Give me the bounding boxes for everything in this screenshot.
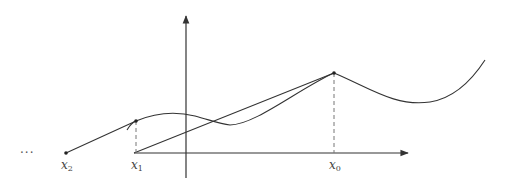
label-x1: x1 — [131, 158, 143, 173]
label-x2: x2 — [61, 158, 73, 173]
newton-method-diagram: ··· x2 x1 x0 — [0, 0, 506, 188]
point-x1-curve — [134, 119, 138, 123]
function-curve — [127, 60, 485, 130]
ellipsis-label: ··· — [20, 146, 34, 160]
tangent-line-x0 — [134, 73, 334, 153]
label-x0: x0 — [329, 158, 341, 173]
point-x2 — [64, 151, 68, 155]
tangent-line-x1 — [66, 121, 136, 153]
point-x0 — [332, 71, 336, 75]
